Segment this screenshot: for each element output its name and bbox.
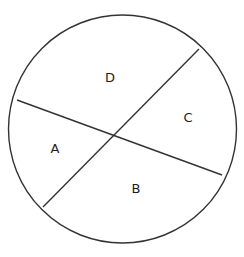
region-label-c: C [183,110,192,125]
outer-circle [9,15,237,243]
region-label-a: A [51,141,60,156]
circle-diagram: A B C D [0,0,244,257]
region-label-b: B [132,181,141,196]
region-label-d: D [105,70,115,85]
chord-bottomleft-to-topright [43,49,199,207]
